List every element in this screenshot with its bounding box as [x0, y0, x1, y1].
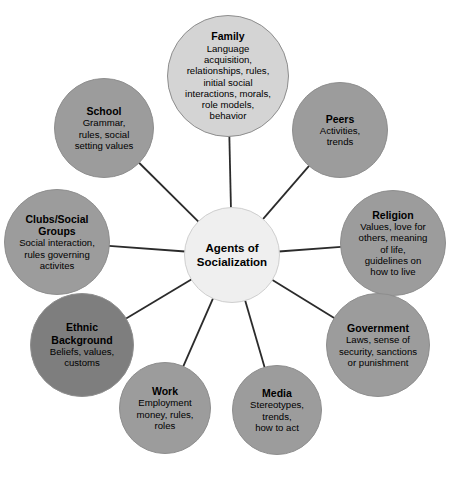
- node-title-clubs-social-groups: Clubs/Social Groups: [25, 213, 88, 238]
- node-government[interactable]: GovernmentLaws, sense of security, sanct…: [326, 293, 430, 397]
- node-title-family: Family: [211, 30, 244, 42]
- edge-center-work: [183, 298, 213, 367]
- node-work[interactable]: WorkEmployment money, rules, roles: [119, 362, 211, 454]
- node-title-center: Agents of Socialization: [197, 241, 267, 270]
- edge-center-family: [229, 136, 231, 208]
- node-description-religion: Values, love for others, meaning of life…: [359, 221, 428, 278]
- node-clubs-social-groups[interactable]: Clubs/Social GroupsSocial interaction, r…: [4, 189, 110, 295]
- node-ethnic-background[interactable]: Ethnic BackgroundBeliefs, values, custom…: [30, 293, 134, 397]
- edge-center-ethnic-background: [126, 279, 192, 319]
- node-title-religion: Religion: [372, 209, 413, 221]
- node-description-school: Grammar, rules, social setting values: [75, 117, 134, 151]
- edge-center-media: [245, 300, 265, 368]
- edge-center-peers: [263, 166, 310, 220]
- node-family[interactable]: FamilyLanguage acquisition, relationship…: [167, 15, 289, 137]
- node-title-school: School: [86, 105, 121, 117]
- node-media[interactable]: MediaStereotypes, trends, how to act: [232, 365, 322, 455]
- node-peers[interactable]: PeersActivities, trends: [292, 82, 388, 178]
- edge-center-clubs-social-groups: [109, 246, 185, 252]
- edge-center-school: [139, 163, 199, 222]
- agents-of-socialization-diagram: FamilyLanguage acquisition, relationship…: [0, 0, 449, 479]
- node-description-clubs-social-groups: Social interaction, rules governing acti…: [19, 237, 95, 271]
- node-title-ethnic-background: Ethnic Background: [51, 321, 112, 346]
- node-description-family: Language acquisition, relationships, rul…: [185, 43, 271, 122]
- node-description-media: Stereotypes, trends, how to act: [250, 399, 304, 433]
- node-school[interactable]: SchoolGrammar, rules, social setting val…: [54, 78, 154, 178]
- node-center[interactable]: Agents of Socialization: [184, 207, 280, 303]
- node-title-work: Work: [152, 385, 178, 397]
- node-religion[interactable]: ReligionValues, love for others, meaning…: [340, 190, 446, 296]
- edge-center-government: [272, 280, 335, 319]
- node-title-peers: Peers: [326, 113, 355, 125]
- node-description-government: Laws, sense of security, sanctions or pu…: [339, 334, 417, 368]
- node-description-ethnic-background: Beliefs, values, customs: [50, 346, 115, 369]
- node-title-government: Government: [347, 322, 409, 334]
- node-title-media: Media: [262, 387, 292, 399]
- node-description-peers: Activities, trends: [320, 125, 361, 148]
- edge-center-religion: [279, 247, 341, 252]
- node-description-work: Employment money, rules, roles: [137, 397, 194, 431]
